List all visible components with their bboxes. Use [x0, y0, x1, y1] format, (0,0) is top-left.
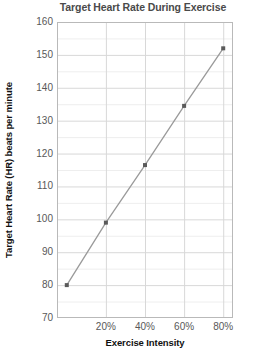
- chart-container: Target Heart Rate During Exercise Target…: [0, 0, 255, 355]
- x-axis-tick-labels: 20%40%60%80%: [0, 0, 255, 355]
- x-axis-tick-label: 80%: [203, 322, 243, 332]
- x-axis-tick-label: 60%: [164, 322, 204, 332]
- x-axis-tick-label: 40%: [125, 322, 165, 332]
- x-axis-title: Exercise Intensity: [57, 337, 233, 348]
- x-axis-tick-label: 20%: [86, 322, 126, 332]
